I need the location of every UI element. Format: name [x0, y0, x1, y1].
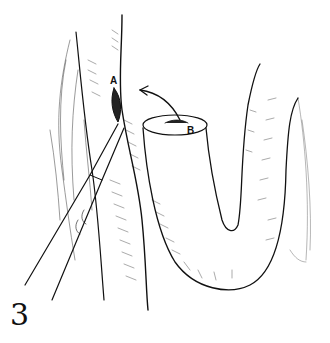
- surgical-illustration: [0, 0, 330, 343]
- bowel-loop: [143, 64, 298, 290]
- label-b: B: [187, 125, 194, 136]
- left-tissue: [50, 40, 92, 260]
- incision-a: [112, 88, 121, 122]
- scalpel: [25, 124, 124, 300]
- mesentery: [290, 98, 311, 262]
- figure-number: 3: [10, 300, 29, 330]
- vertical-bowel-segment: [76, 15, 148, 310]
- label-a: A: [110, 75, 117, 86]
